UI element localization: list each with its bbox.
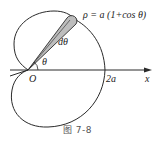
intercept-label: 2a — [106, 74, 116, 84]
wedge-dtheta — [28, 16, 77, 70]
x-axis-arrow-icon — [144, 68, 152, 73]
origin-label: O — [29, 74, 36, 84]
cardioid-equation: ρ = a (1+cos θ) — [83, 10, 146, 20]
x-axis-label: x — [145, 74, 149, 84]
wedge-label: dθ — [58, 37, 68, 47]
figure-caption: 图 7-8 — [63, 126, 92, 135]
cardioid-lower-curve — [11, 70, 105, 127]
angle-label: θ — [42, 57, 47, 67]
